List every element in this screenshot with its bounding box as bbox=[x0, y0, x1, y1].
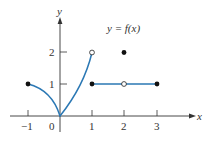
closed-point-3-1 bbox=[155, 82, 160, 87]
x-tick-label-3: 3 bbox=[154, 120, 160, 132]
left-branch-curve bbox=[28, 84, 60, 116]
y-axis-arrow-icon bbox=[58, 17, 63, 24]
closed-point-2-2 bbox=[122, 50, 127, 55]
x-tick-label-1: 1 bbox=[89, 120, 95, 132]
origin-label: 0 bbox=[49, 120, 55, 132]
function-points bbox=[26, 50, 160, 86]
y-tick-label-1: 1 bbox=[49, 78, 55, 90]
function-graph: y x 0 −1 1 2 3 1 2 y = f(x) bbox=[0, 0, 215, 141]
closed-point-neg1-1 bbox=[26, 82, 31, 87]
x-tick-label--1: −1 bbox=[21, 120, 33, 132]
function-label: y = f(x) bbox=[106, 22, 140, 35]
labels: y x 0 −1 1 2 3 1 2 y = f(x) bbox=[21, 5, 202, 132]
y-axis-label: y bbox=[56, 5, 62, 17]
open-point-2-1 bbox=[122, 82, 127, 87]
closed-point-1-1 bbox=[90, 82, 95, 87]
open-point-1-2 bbox=[90, 50, 95, 55]
x-tick-label-2: 2 bbox=[121, 120, 127, 132]
axes bbox=[10, 17, 196, 132]
x-axis-label: x bbox=[196, 110, 202, 122]
y-tick-label-2: 2 bbox=[49, 46, 55, 58]
x-axis-arrow-icon bbox=[189, 114, 196, 119]
